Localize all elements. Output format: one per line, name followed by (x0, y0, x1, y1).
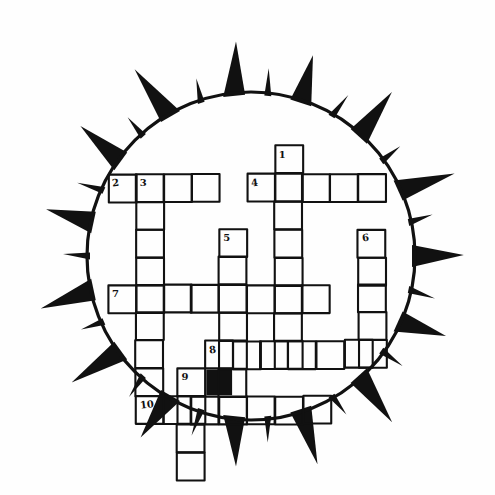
crossword-sun-illustration: 12345678910 (0, 0, 495, 495)
crossword-cells-group (108, 145, 386, 480)
puzzle-canvas (0, 0, 495, 495)
sun-rays-group (41, 42, 464, 467)
